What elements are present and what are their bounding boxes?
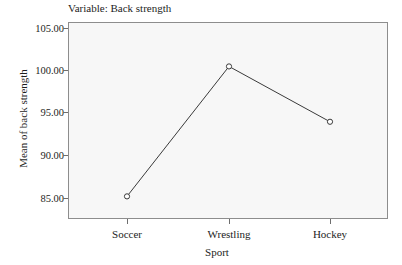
x-tick-label-soccer: Soccer — [72, 227, 182, 241]
x-axis-title: Sport — [205, 246, 229, 258]
y-tick-label-105: 105.00 — [4, 23, 64, 34]
y-tick-label-90: 90.00 — [4, 150, 64, 161]
x-axis-title-wrap: Sport — [0, 245, 402, 259]
y-tick-label-95: 95.00 — [4, 107, 64, 118]
chart-title: Variable: Back strength — [68, 1, 171, 15]
y-tick-mark-100 — [63, 70, 68, 71]
x-tick-mark-hockey — [330, 219, 331, 224]
y-tick-mark-95 — [63, 112, 68, 113]
data-point-soccer — [124, 194, 129, 199]
y-tick-mark-90 — [63, 155, 68, 156]
data-point-hockey — [327, 119, 332, 124]
y-tick-mark-85 — [63, 198, 68, 199]
series-markers — [124, 64, 332, 199]
series-line-mean-back-strength — [127, 66, 330, 196]
y-tick-mark-105 — [63, 28, 68, 29]
x-tick-label-wrestling: Wrestling — [174, 227, 284, 241]
x-tick-label-hockey: Hockey — [275, 227, 385, 241]
y-tick-label-100: 100.00 — [4, 65, 64, 76]
line-chart: Variable: Back strength Mean of back str… — [0, 0, 402, 265]
plot-series-layer — [68, 22, 388, 219]
data-point-wrestling — [226, 64, 231, 69]
x-tick-mark-soccer — [127, 219, 128, 224]
y-tick-label-85: 85.00 — [4, 193, 64, 204]
x-tick-mark-wrestling — [229, 219, 230, 224]
